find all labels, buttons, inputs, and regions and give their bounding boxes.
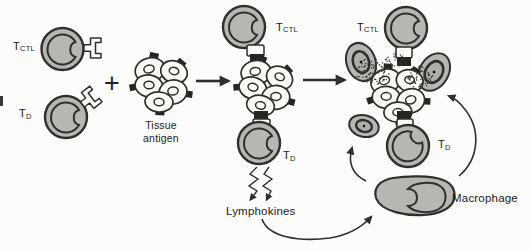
- tcr-receptor-icon: [396, 47, 412, 58]
- label-td-right: TD: [438, 139, 451, 151]
- immunology-diagram: TCTL + TD Tissue antigen TCTL TD Lymphok…: [0, 0, 531, 251]
- label-td-middle: TD: [283, 150, 296, 162]
- label-t-main: T: [13, 40, 20, 52]
- plus-sign: +: [104, 70, 120, 97]
- label-t-main: T: [438, 138, 445, 150]
- label-t-sub: CTL: [283, 25, 298, 34]
- label-t-sub: CTL: [20, 44, 35, 53]
- arrow-lymphokines-to-macrophage: [262, 217, 371, 239]
- td-cell-left: [45, 86, 102, 138]
- label-t-sub: D: [290, 154, 296, 163]
- label-t-sub: D: [26, 112, 32, 121]
- tctl-cell-bound: [223, 6, 265, 63]
- label-t-main: T: [357, 21, 364, 33]
- tissue-antigen-cluster-left: [129, 52, 193, 116]
- label-td-left: TD: [19, 108, 32, 120]
- label-lymphokines: Lymphokines: [226, 206, 296, 217]
- label-tctl-left: TCTL: [13, 41, 35, 53]
- label-tctl-middle: TCTL: [276, 22, 298, 34]
- tctl-cell-attacking: [385, 7, 427, 66]
- label-t-sub: D: [445, 143, 451, 152]
- target-cell-lower-left: [347, 112, 381, 140]
- tcr-receptor-icon: [84, 38, 101, 58]
- label-t-sub: CTL: [364, 25, 379, 34]
- label-tissue-antigen: Tissue antigen: [129, 119, 193, 144]
- label-t-main: T: [276, 21, 283, 33]
- label-macrophage: Macrophage: [452, 193, 518, 204]
- label-tissue-line2: antigen: [129, 132, 193, 145]
- lymphokine-zigzag-arrow: [249, 167, 258, 199]
- label-tissue-line1: Tissue: [129, 119, 193, 132]
- tctl-cell-left: [42, 28, 102, 70]
- macrophage-cell: [375, 176, 454, 215]
- label-t-main: T: [19, 107, 26, 119]
- arrow-macrophage-to-cell-right: [449, 96, 476, 176]
- arrow-macrophage-to-cell-left: [351, 148, 366, 181]
- scan-artifact: [0, 96, 3, 106]
- lymphokine-zigzag-arrow: [263, 167, 272, 199]
- label-t-main: T: [283, 149, 290, 161]
- label-tctl-right: TCTL: [357, 22, 379, 34]
- td-cell-bound: [238, 111, 280, 164]
